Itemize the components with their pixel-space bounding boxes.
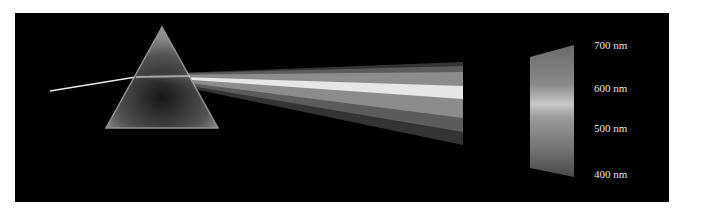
internal-ray xyxy=(136,76,190,77)
prism-illustration xyxy=(0,0,703,215)
label-600nm: 600 nm xyxy=(594,82,627,94)
label-500nm: 500 nm xyxy=(594,122,627,134)
spectrum-screen xyxy=(530,45,574,177)
label-400nm: 400 nm xyxy=(594,168,627,180)
label-700nm: 700 nm xyxy=(594,39,627,51)
incident-ray xyxy=(50,77,136,91)
